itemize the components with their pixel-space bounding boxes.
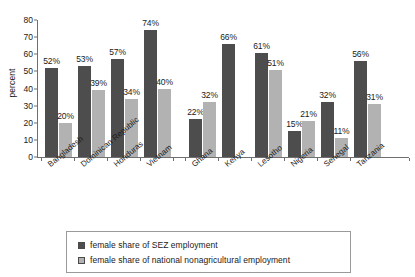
bar-value-label: 66%	[217, 33, 240, 42]
bar-value-label: 74%	[139, 19, 162, 28]
bar-value-label: 39%	[87, 79, 110, 88]
legend-swatch-dark-icon	[78, 242, 85, 249]
bar-value-label: 53%	[73, 55, 96, 64]
legend-label-sez: female share of SEZ employment	[90, 241, 218, 250]
bar-value-label: 32%	[316, 91, 339, 100]
legend-item-national: female share of national nonagricultural…	[78, 253, 350, 268]
x-axis-tick-mark	[173, 158, 174, 161]
bar-value-label: 57%	[106, 48, 129, 57]
y-axis-tick-mark	[34, 20, 37, 21]
x-axis-tick-mark	[409, 158, 410, 161]
y-axis-tick-mark	[34, 157, 37, 158]
y-axis-tick-mark	[34, 37, 37, 38]
x-axis-tick-mark	[41, 158, 42, 161]
legend-swatch-light-icon	[78, 257, 85, 264]
x-axis-tick-mark	[185, 158, 186, 161]
bar-value-label: 51%	[264, 59, 287, 68]
bar-value-label: 52%	[40, 57, 63, 66]
bar-sez-kenya	[222, 44, 235, 157]
y-axis-tick-label: 70	[11, 33, 33, 42]
bar-chart: percent 01020304050607080 52%20%53%39%57…	[0, 0, 415, 277]
legend-label-national: female share of national nonagricultural…	[90, 256, 290, 265]
bar-sez-vietnam	[144, 30, 157, 157]
bar-sez-lesotho	[255, 53, 268, 157]
x-axis-tick-mark	[284, 158, 285, 161]
bar-value-label: 34%	[120, 88, 143, 97]
y-axis-tick-label: 80	[11, 16, 33, 25]
bar-value-label: 32%	[198, 91, 221, 100]
bar-value-label: 56%	[349, 50, 372, 59]
y-axis-line	[37, 20, 38, 158]
bar-sez-tanzania	[354, 61, 367, 157]
y-axis-tick-label: 50	[11, 67, 33, 76]
x-axis-tick-mark	[74, 158, 75, 161]
bar-value-label: 31%	[363, 93, 386, 102]
y-axis-tick-label: 30	[11, 101, 33, 110]
y-axis-tick-label: 60	[11, 50, 33, 59]
bar-value-label: 61%	[250, 42, 273, 51]
y-axis-tick-label: 20	[11, 119, 33, 128]
y-axis-tick-mark	[34, 88, 37, 89]
y-axis-tick-mark	[34, 54, 37, 55]
y-axis-tick-mark	[34, 122, 37, 123]
legend-item-sez: female share of SEZ employment	[78, 238, 350, 253]
chart-legend: female share of SEZ employment female sh…	[66, 231, 351, 273]
bar-value-label: 40%	[153, 78, 176, 87]
y-axis-tick-mark	[34, 105, 37, 106]
y-axis-tick-label: 0	[11, 153, 33, 162]
y-axis-tick-mark	[34, 71, 37, 72]
y-axis-tick-label: 10	[11, 136, 33, 145]
bar-value-label: 11%	[330, 127, 353, 136]
x-axis-tick-mark	[251, 158, 252, 161]
x-axis-tick-mark	[107, 158, 108, 161]
x-axis-tick-mark	[218, 158, 219, 161]
bar-value-label: 20%	[54, 112, 77, 121]
x-axis-tick-mark	[317, 158, 318, 161]
y-axis-tick-label: 40	[11, 84, 33, 93]
bar-sez-ghana	[189, 119, 202, 157]
y-axis-tick-mark	[34, 139, 37, 140]
x-axis-tick-mark	[350, 158, 351, 161]
x-axis-tick-mark	[140, 158, 141, 161]
bar-value-label: 21%	[297, 110, 320, 119]
